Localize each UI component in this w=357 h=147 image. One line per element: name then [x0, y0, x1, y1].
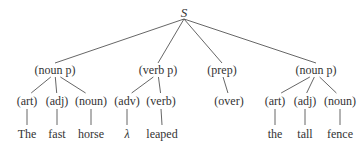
edge-phrase-tag: [31, 77, 51, 93]
edge-phrase-tag: [281, 77, 310, 93]
word-fence: fence: [327, 128, 353, 140]
edge-phrase-tag: [307, 77, 315, 93]
word-leaped: leaped: [146, 128, 177, 140]
edge-root-phrase: [55, 19, 184, 63]
word-tall: tall: [297, 128, 312, 140]
edge-tag-word: [161, 109, 162, 125]
tag-adj-2: (adj): [294, 95, 317, 107]
edge-phrase-tag: [158, 77, 160, 93]
phrase-verb-p: (verb p): [139, 64, 177, 76]
phrase-prep: (prep): [207, 64, 236, 76]
edge-phrase-tag: [223, 77, 228, 93]
word-the: The: [18, 128, 37, 140]
tag-art-1: (art): [17, 95, 38, 107]
edge-root-phrase: [184, 19, 316, 63]
tag-noun-2: (noun): [324, 95, 356, 107]
edge-root-phrase: [158, 19, 184, 63]
tag-art-2: (art): [265, 95, 286, 107]
word-horse: horse: [78, 128, 104, 140]
edge-phrase-tag: [60, 77, 85, 93]
word-the-2: the: [268, 128, 283, 140]
phrase-noun-p-2: (noun p): [296, 64, 337, 76]
word-fast: fast: [48, 128, 65, 140]
word-lambda: λ: [124, 128, 129, 140]
root-node-s: S: [181, 6, 188, 19]
tag-over: (over): [214, 95, 243, 107]
parse-tree-diagram: S (noun p) (verb p) (prep) (noun p) (art…: [0, 0, 357, 147]
edge-phrase-tag: [55, 77, 56, 93]
tag-adv: (adv): [114, 95, 139, 107]
tag-adj-1: (adj): [46, 95, 69, 107]
tag-verb: (verb): [146, 95, 175, 107]
edge-phrase-tag: [320, 77, 337, 93]
tag-noun-1: (noun): [75, 95, 107, 107]
phrase-noun-p-1: (noun p): [35, 64, 76, 76]
edge-phrase-tag: [132, 77, 154, 93]
